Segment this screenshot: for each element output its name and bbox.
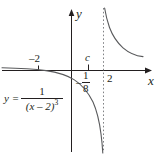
tick-label-two: 2 <box>107 73 113 84</box>
y-intercept-label: – 1 8 <box>76 70 90 94</box>
curve-right-branch <box>105 8 143 57</box>
function-graph-figure: y x –2 c 2 – 1 8 y = 1 (x – 2)3 <box>0 0 163 155</box>
axis-label-x: x <box>148 74 154 87</box>
tick-label-negative-two: –2 <box>29 53 40 64</box>
equation-denominator: (x – 2)3 <box>25 99 59 112</box>
equation-denominator-exponent: 3 <box>55 98 59 107</box>
fraction-one-eighth: 1 8 <box>82 70 90 94</box>
equation-numerator: 1 <box>38 86 46 98</box>
fraction-denominator: 8 <box>82 83 90 95</box>
minus-sign: – <box>76 77 82 88</box>
fraction-numerator: 1 <box>82 70 90 82</box>
equation-fraction: 1 (x – 2)3 <box>21 86 63 112</box>
equation-denominator-base: (x – 2) <box>26 100 55 112</box>
axis-label-y: y <box>76 7 82 20</box>
y-axis <box>69 9 75 152</box>
tick-label-c: c <box>85 52 90 63</box>
equation-label: y = 1 (x – 2)3 <box>4 86 63 112</box>
equation-lhs: y = <box>4 93 19 104</box>
